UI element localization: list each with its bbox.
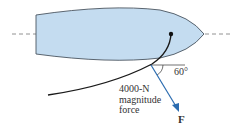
force-arrow-head (172, 103, 179, 112)
force-label-line3: force (119, 105, 161, 116)
angle-arc (157, 65, 163, 75)
angle-label: 60° (174, 67, 188, 78)
force-vector-label: F (178, 114, 185, 125)
boat-hull (36, 8, 204, 60)
boat-force-diagram: 4000-N magnitude force 60° F (0, 0, 238, 134)
force-magnitude-label: 4000-N magnitude force (119, 84, 161, 116)
force-label-line1: 4000-N (119, 84, 161, 95)
attachment-point (169, 32, 173, 36)
